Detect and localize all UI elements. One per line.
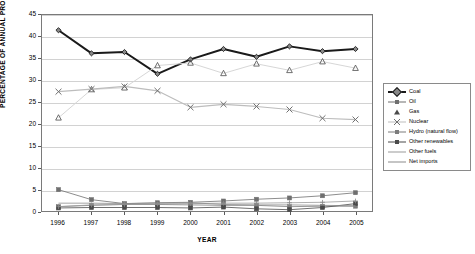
y-tick-mark: [38, 102, 41, 103]
y-tick-mark: [38, 36, 41, 37]
legend-label: Gas: [407, 109, 419, 115]
chart-screenshot: PERCENTAGE OF ANNUAL PRODUCTION 05101520…: [0, 0, 475, 254]
y-tick-label: 15: [16, 143, 36, 150]
y-tick-label: 0: [16, 209, 36, 216]
x-tick-mark: [356, 212, 357, 215]
y-tick-label: 45: [16, 11, 36, 18]
data-point-diamond: [320, 49, 325, 54]
data-point-square: [255, 207, 259, 211]
data-point-square: [288, 196, 292, 200]
data-point-diamond: [353, 46, 358, 51]
legend-item-other-fuels: Other fuels: [387, 147, 467, 157]
x-tick-label: 2001: [216, 220, 230, 227]
x-tick-label: 2000: [183, 220, 197, 227]
x-tick-mark: [290, 212, 291, 215]
legend-item-hydro-natural-flow: Hydro (natural flow): [387, 127, 467, 137]
data-point-square: [90, 198, 94, 202]
legend-label: Hydro (natural flow): [407, 129, 458, 135]
x-tick-label: 2002: [250, 220, 264, 227]
legend-item-gas: Gas: [387, 107, 467, 117]
legend-label: Other fuels: [407, 149, 436, 155]
legend-item-other-renewables: Other renewables: [387, 137, 467, 147]
y-tick-mark: [38, 14, 41, 15]
x-tick-label: 2004: [316, 220, 330, 227]
x-tick-mark: [91, 212, 92, 215]
plot-area: [41, 14, 373, 212]
legend-label: Oil: [407, 99, 416, 105]
legend-label: Nuclear: [407, 119, 428, 125]
y-tick-mark: [38, 168, 41, 169]
x-tick-mark: [190, 212, 191, 215]
y-tick-mark: [38, 190, 41, 191]
legend-item-coal: Coal: [387, 87, 467, 97]
x-tick-mark: [58, 212, 59, 215]
data-point-diamond: [254, 54, 259, 59]
legend-key-triangle-icon: [387, 107, 407, 117]
data-point-square: [321, 194, 325, 198]
x-tick-mark: [257, 212, 258, 215]
series-line: [59, 190, 356, 204]
legend-item-net-imports: Net imports: [387, 157, 467, 167]
data-point-square: [354, 191, 358, 195]
x-tick-label: 2003: [283, 220, 297, 227]
data-point-square: [255, 197, 259, 201]
x-tick-label: 1998: [117, 220, 131, 227]
data-point-square: [222, 205, 226, 209]
x-tick-label: 1999: [150, 220, 164, 227]
x-axis-title: YEAR: [197, 236, 217, 243]
legend-key-x-icon: [387, 117, 407, 127]
y-tick-mark: [38, 58, 41, 59]
x-tick-mark: [323, 212, 324, 215]
x-tick-label: 1997: [84, 220, 98, 227]
legend-label: Other renewables: [407, 139, 453, 145]
data-point-square: [189, 206, 193, 210]
y-tick-label: 20: [16, 121, 36, 128]
legend-item-oil: Oil: [387, 97, 467, 107]
y-tick-mark: [38, 212, 41, 213]
legend-label: Net imports: [407, 159, 438, 165]
data-point-diamond: [221, 46, 226, 51]
legend-key-plus-icon: [387, 147, 407, 157]
x-tick-mark: [124, 212, 125, 215]
series-line: [59, 30, 356, 74]
y-tick-mark: [38, 80, 41, 81]
y-tick-label: 5: [16, 187, 36, 194]
series-layer: [42, 15, 372, 211]
x-tick-mark: [224, 212, 225, 215]
legend-key-square-icon: [387, 127, 407, 137]
legend-key-square-icon: [387, 97, 407, 107]
x-tick-mark: [157, 212, 158, 215]
y-axis-title: PERCENTAGE OF ANNUAL PRODUCTION: [0, 0, 6, 108]
legend-key-diamond-icon: [387, 87, 407, 97]
legend-key-square-icon: [387, 137, 407, 147]
y-tick-label: 30: [16, 77, 36, 84]
legend-label: Coal: [407, 89, 421, 95]
data-point-square: [321, 206, 325, 210]
series-line: [59, 86, 356, 119]
data-point-square: [57, 188, 61, 192]
y-tick-label: 25: [16, 99, 36, 106]
legend-key-none-icon: [387, 157, 407, 167]
y-tick-mark: [38, 146, 41, 147]
y-tick-mark: [38, 124, 41, 125]
chart-legend: CoalOilGasNuclearHydro (natural flow)Oth…: [383, 83, 471, 171]
x-tick-label: 2005: [349, 220, 363, 227]
data-point-diamond: [287, 44, 292, 49]
legend-item-nuclear: Nuclear: [387, 117, 467, 127]
y-tick-label: 35: [16, 55, 36, 62]
y-tick-label: 10: [16, 165, 36, 172]
y-tick-label: 40: [16, 33, 36, 40]
x-tick-label: 1996: [50, 220, 64, 227]
series-line: [59, 62, 356, 118]
